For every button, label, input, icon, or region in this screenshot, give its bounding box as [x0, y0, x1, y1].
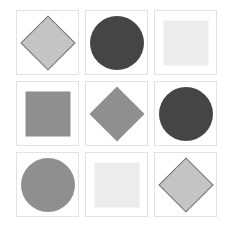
square-shape	[94, 162, 139, 207]
diamond-shape	[89, 86, 144, 141]
diamond-shape	[20, 15, 75, 70]
grid-cell-r3-c3[interactable]	[154, 152, 217, 217]
circle-shape	[159, 87, 213, 141]
shape-grid	[16, 10, 217, 217]
grid-cell-r1-c1[interactable]	[16, 10, 79, 75]
square-shape	[163, 20, 208, 65]
grid-cell-r2-c3[interactable]	[154, 81, 217, 146]
grid-cell-r3-c2[interactable]	[85, 152, 148, 217]
square-shape	[25, 91, 70, 136]
grid-cell-r3-c1[interactable]	[16, 152, 79, 217]
circle-shape	[21, 158, 75, 212]
grid-cell-r1-c3[interactable]	[154, 10, 217, 75]
grid-cell-r2-c2[interactable]	[85, 81, 148, 146]
circle-shape	[90, 16, 144, 70]
diamond-shape	[158, 157, 213, 212]
grid-cell-r2-c1[interactable]	[16, 81, 79, 146]
grid-cell-r1-c2[interactable]	[85, 10, 148, 75]
